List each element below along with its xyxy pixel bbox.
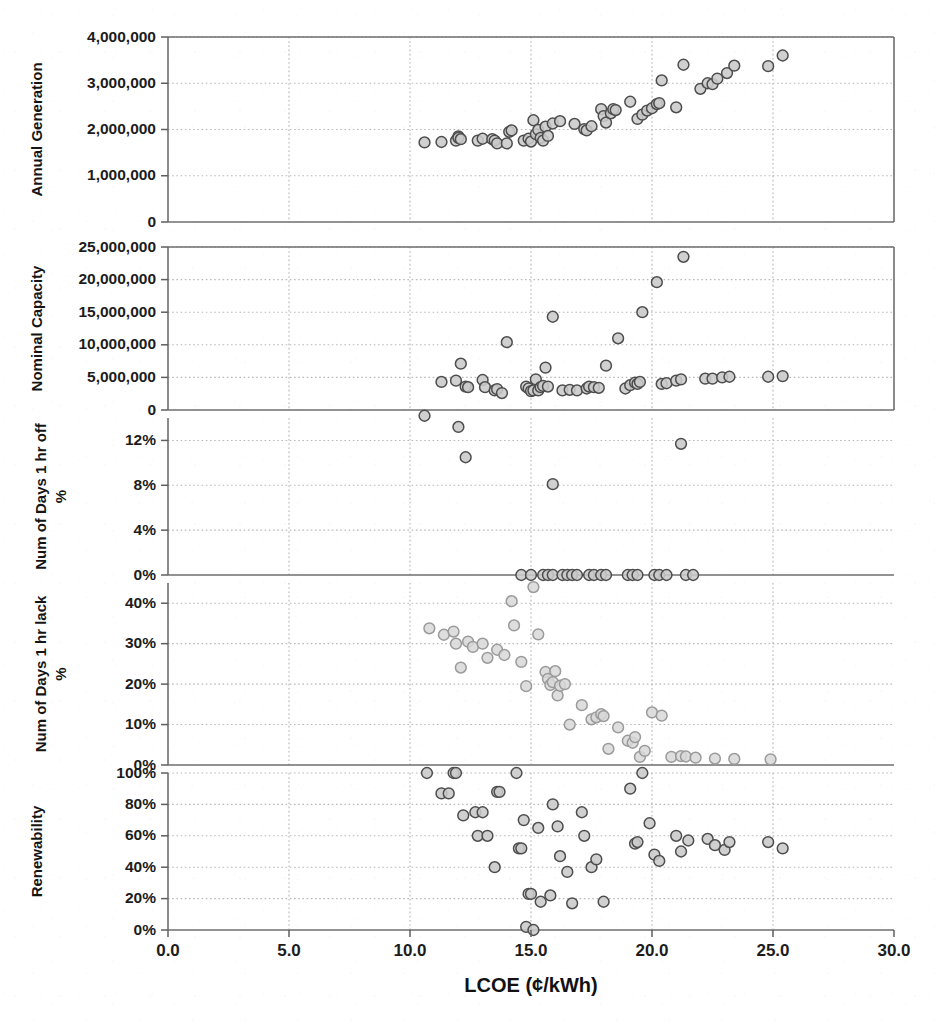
y-axis-title: Num of Days 1 hr off [32,422,49,570]
data-point [656,75,667,86]
data-point [576,700,587,711]
y-tick-label: 10% [125,715,156,732]
data-point [547,479,558,490]
data-point [656,710,667,721]
data-point [635,377,646,388]
y-tick-label: 30% [125,634,156,651]
data-point [506,125,517,136]
x-tick-label: 10.0 [393,941,426,960]
data-point [678,59,689,70]
data-point [651,277,662,288]
y-tick-label: 20% [125,889,156,906]
y-tick-label: 40% [125,858,156,875]
data-point [763,837,774,848]
data-point [601,360,612,371]
data-point [555,116,566,127]
data-point [586,121,597,132]
data-point [533,823,544,834]
data-point [453,422,464,433]
data-point [763,371,774,382]
data-point [724,371,735,382]
data-point [644,818,655,829]
y-tick-label: 12% [125,431,156,448]
data-point [676,438,687,449]
data-point [765,754,776,765]
y-tick-label: 40% [125,594,156,611]
y-tick-label: 4% [134,521,157,538]
data-point [632,570,643,581]
data-point [591,854,602,865]
x-tick-label: 5.0 [277,941,301,960]
data-point [419,137,430,148]
data-point [654,856,665,867]
data-point [610,105,621,116]
data-point [671,830,682,841]
data-point [637,307,648,318]
data-point [455,358,466,369]
data-point [562,867,573,878]
data-point [506,596,517,607]
data-point [576,807,587,818]
y-tick-label: 4,000,000 [87,28,156,45]
data-point [724,837,735,848]
y-tick-label: 0% [134,566,157,583]
data-point [710,753,721,764]
data-point [559,679,570,690]
data-point [448,626,459,637]
data-point [511,768,522,779]
data-point [613,722,624,733]
data-point [540,362,551,373]
data-point [598,711,609,722]
x-tick-label: 20.0 [635,941,668,960]
data-point [572,385,583,396]
data-point [451,375,462,386]
y-tick-label: 8% [134,476,157,493]
data-point [729,60,740,71]
y-tick-label: 0% [134,921,157,938]
data-point [547,799,558,810]
data-point [501,337,512,348]
data-point [688,570,699,581]
data-point [497,388,508,399]
y-tick-label: 5,000,000 [87,368,156,385]
data-point [455,662,466,673]
data-point [555,851,566,862]
y-tick-label: 0 [147,213,156,230]
data-point [676,846,687,857]
x-tick-label: 0.0 [156,941,180,960]
data-point [603,743,614,754]
data-point [630,732,641,743]
data-point [777,371,788,382]
data-point [625,783,636,794]
y-tick-label: 2,000,000 [87,120,156,137]
data-point [482,830,493,841]
data-point [516,843,527,854]
y-tick-label: 100% [116,764,156,781]
data-point [661,570,672,581]
data-point [572,570,583,581]
x-tick-label: 30.0 [877,941,910,960]
data-point [436,137,447,148]
data-point [567,898,578,909]
chart-background [0,0,948,1031]
data-point [763,61,774,72]
y-tick-label: 60% [125,826,156,843]
data-point [494,786,505,797]
data-point [528,925,539,936]
data-point [458,810,469,821]
data-point [545,890,556,901]
scatter-panel-chart: 01,000,0002,000,0003,000,0004,000,000Ann… [0,0,948,1031]
y-axis-title: Num of Days 1 hr lack [32,595,49,752]
data-point [526,570,537,581]
chart-figure: 01,000,0002,000,0003,000,0004,000,000Ann… [0,0,948,1031]
data-point [777,843,788,854]
y-axis-title: Annual Generation [28,62,45,196]
data-point [477,638,488,649]
data-point [451,768,462,779]
data-point [424,623,435,634]
data-point [676,374,687,385]
y-axis-title-unit: % [52,667,69,680]
data-point [463,382,474,393]
data-point [552,821,563,832]
data-point [518,815,529,826]
